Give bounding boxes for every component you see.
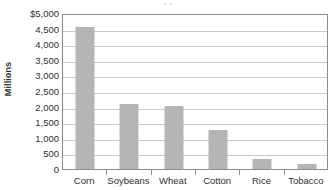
y-axis-tick-label: 3,000 [14, 71, 59, 81]
y-axis-tick-labels: $5,0004,5004,0003,5003,0002,5002,0001,50… [14, 14, 59, 170]
y-axis-tick-label: 3,500 [14, 56, 59, 66]
y-axis-tick-label: 2,000 [14, 103, 59, 113]
cropped-title-remnant: • • [0, 0, 336, 7]
x-axis-category-label: Wheat [151, 175, 195, 187]
bar[interactable] [253, 159, 272, 169]
x-axis-category-labels: CornSoybeansWheatCottonRiceTobacco [62, 175, 328, 189]
plot-area [62, 14, 328, 170]
bar-chart: • • Millions $5,0004,5004,0003,5003,0002… [0, 0, 336, 190]
bars-layer [63, 15, 327, 169]
bar-slot [152, 15, 196, 169]
y-axis-tick-label: 1,500 [14, 118, 59, 128]
bar-slot [63, 15, 107, 169]
y-axis-tick-label: 500 [14, 149, 59, 159]
y-axis-title: Millions [3, 47, 13, 111]
y-axis-tick-label: 2,500 [14, 87, 59, 97]
y-axis-tick-label: 4,500 [14, 25, 59, 35]
x-axis-category-label: Rice [239, 175, 283, 187]
bar-slot [240, 15, 284, 169]
bar[interactable] [297, 164, 316, 169]
x-axis-category-label: Tobacco [284, 175, 328, 187]
x-axis-category-label: Corn [62, 175, 106, 187]
bar-slot [196, 15, 240, 169]
y-axis-tick-label: 4,000 [14, 40, 59, 50]
y-axis-tick-label: $5,000 [14, 9, 59, 19]
bar[interactable] [76, 27, 95, 169]
y-axis-tick-label: 1,000 [14, 134, 59, 144]
bar[interactable] [164, 106, 183, 169]
x-axis-category-label: Soybeans [106, 175, 150, 187]
bar-slot [107, 15, 151, 169]
x-axis-category-label: Cotton [195, 175, 239, 187]
bar[interactable] [120, 104, 139, 169]
bar[interactable] [209, 130, 228, 169]
bar-slot [285, 15, 329, 169]
y-axis-tick-label: 0 [14, 165, 59, 175]
